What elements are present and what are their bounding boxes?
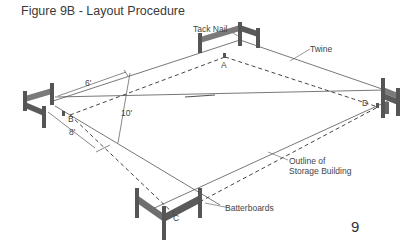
dimension-6ft [58,70,128,96]
dimension-8ft [48,112,110,152]
corner-b-label: B [68,114,74,124]
twine-lines [50,40,390,210]
corner-c-label: C [173,213,179,223]
ten-ft-label: 10' [121,108,132,118]
outline-label-line1: Outline of [289,156,325,166]
batterboard-c [135,188,202,240]
page-number: 9 [351,218,359,235]
outline-label-line2: Storage Building [289,166,351,176]
batterboard-d [381,78,400,118]
tack-nail-label: Tack Nail [193,24,227,34]
layout-diagram [0,0,408,251]
eight-ft-label: 8' [69,127,75,137]
six-ft-label: 6' [85,78,91,88]
leader-lines [205,30,310,208]
corner-d-label: D [362,98,368,108]
corner-a-label: A [221,60,227,70]
batterboards-label: Batterboards [225,203,274,213]
twine-label: Twine [310,44,332,54]
batterboard-b [23,83,54,128]
